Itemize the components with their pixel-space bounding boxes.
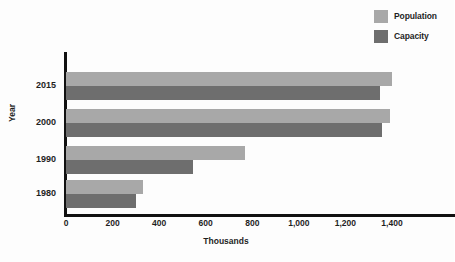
y-tick-label-2015: 2015 (36, 80, 56, 90)
bar-capacity-1990 (66, 160, 193, 174)
legend-swatch-population (374, 10, 388, 23)
x-tick-label-1200: 1,200 (335, 218, 356, 228)
y-tick-label-1990: 1990 (36, 154, 56, 164)
x-tick-label-600: 600 (199, 218, 213, 228)
bar-population-2000 (66, 109, 390, 123)
legend-label-capacity: Capacity (394, 31, 429, 41)
bar-population-2015 (66, 72, 392, 86)
legend-swatch-capacity (374, 30, 388, 43)
x-axis-line (64, 214, 455, 217)
y-axis-tick-labels: 2015200019901980 (0, 52, 62, 214)
legend-item-population: Population (374, 9, 454, 23)
bar-capacity-1980 (66, 194, 136, 208)
y-tick-label-1980: 1980 (36, 188, 56, 198)
x-tick-label-800: 800 (245, 218, 259, 228)
x-tick-label-0: 0 (64, 218, 69, 228)
bar-capacity-2015 (66, 86, 380, 100)
bar-capacity-2000 (66, 123, 382, 137)
x-axis-title: Thousands (66, 236, 386, 246)
bar-series-container (66, 52, 454, 214)
bar-population-1990 (66, 146, 245, 160)
x-tick-label-1400: 1,400 (381, 218, 402, 228)
x-tick-label-400: 400 (152, 218, 166, 228)
bar-population-1980 (66, 180, 143, 194)
x-tick-label-200: 200 (105, 218, 119, 228)
y-tick-label-2000: 2000 (36, 117, 56, 127)
x-axis-tick-labels: 02004006008001,0001,2001,400 (0, 218, 454, 232)
chart-legend: Population Capacity (374, 9, 454, 49)
legend-label-population: Population (394, 11, 437, 21)
legend-item-capacity: Capacity (374, 29, 454, 43)
plot-area (66, 52, 454, 214)
x-tick-label-1000: 1,000 (288, 218, 309, 228)
